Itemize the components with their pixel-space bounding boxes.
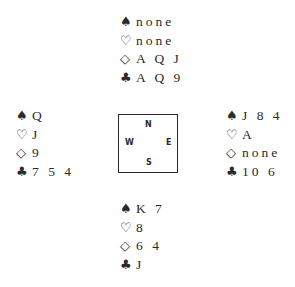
north-hearts: ♡none xyxy=(120,32,183,51)
spade-icon: ♠ xyxy=(16,107,32,126)
diamond-icon: ◇ xyxy=(16,144,32,163)
south-clubs: ♣J xyxy=(120,256,165,275)
east-diamonds: ◇none xyxy=(226,144,283,163)
club-icon: ♣ xyxy=(120,69,136,88)
heart-icon: ♡ xyxy=(120,219,136,238)
west-diamonds: ◇9 xyxy=(16,144,74,163)
north-spades: ♠none xyxy=(120,13,183,32)
heart-icon: ♡ xyxy=(226,126,242,145)
north-diamonds: ◇A Q J xyxy=(120,50,183,69)
south-diamonds: ◇6 4 xyxy=(120,237,165,256)
south-spades: ♠K 7 xyxy=(120,200,165,219)
diamond-icon: ◇ xyxy=(120,237,136,256)
heart-icon: ♡ xyxy=(120,32,136,51)
compass-south: S xyxy=(146,158,152,167)
compass-north: N xyxy=(145,120,152,129)
east-hand: ♠J 8 4 ♡A ◇none ♣10 6 xyxy=(226,107,283,181)
west-clubs: ♣7 5 4 xyxy=(16,163,74,182)
west-hand: ♠Q ♡J ◇9 ♣7 5 4 xyxy=(16,107,74,181)
west-hearts: ♡J xyxy=(16,126,74,145)
compass-east: E xyxy=(166,138,171,147)
club-icon: ♣ xyxy=(120,256,136,275)
club-icon: ♣ xyxy=(16,163,32,182)
spade-icon: ♠ xyxy=(120,200,136,219)
spade-icon: ♠ xyxy=(226,107,242,126)
diamond-icon: ◇ xyxy=(120,50,136,69)
east-hearts: ♡A xyxy=(226,126,283,145)
heart-icon: ♡ xyxy=(16,126,32,145)
south-hearts: ♡8 xyxy=(120,219,165,238)
club-icon: ♣ xyxy=(226,163,242,182)
north-hand: ♠none ♡none ◇A Q J ♣A Q 9 xyxy=(120,13,183,87)
compass-west: W xyxy=(125,138,134,147)
compass-box: N W E S xyxy=(118,114,178,173)
east-clubs: ♣10 6 xyxy=(226,163,283,182)
west-spades: ♠Q xyxy=(16,107,74,126)
south-hand: ♠K 7 ♡8 ◇6 4 ♣J xyxy=(120,200,165,274)
east-spades: ♠J 8 4 xyxy=(226,107,283,126)
north-clubs: ♣A Q 9 xyxy=(120,69,183,88)
spade-icon: ♠ xyxy=(120,13,136,32)
diamond-icon: ◇ xyxy=(226,144,242,163)
